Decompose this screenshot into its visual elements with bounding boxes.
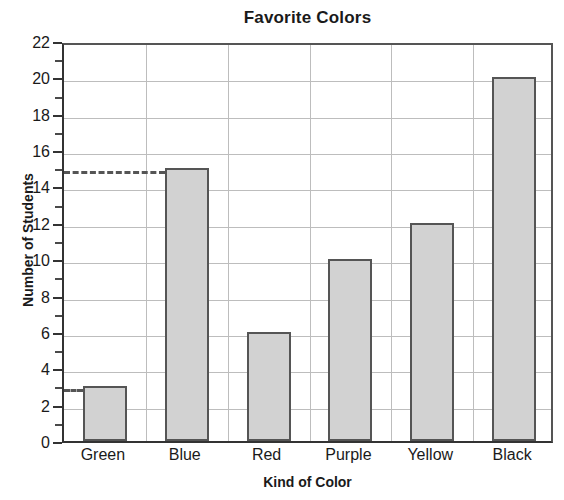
y-tick-minor — [55, 60, 62, 62]
reference-line-15 — [64, 171, 165, 174]
y-tick-minor — [55, 351, 62, 353]
y-tick-major — [53, 187, 62, 189]
y-tick-major — [53, 442, 62, 444]
gridline-horizontal — [64, 190, 551, 191]
y-tick-major — [53, 151, 62, 153]
gridline-vertical — [310, 45, 311, 441]
y-tick-label: 12 — [32, 216, 50, 234]
y-tick-minor — [55, 315, 62, 317]
plot-area — [62, 43, 553, 443]
y-tick-major — [53, 42, 62, 44]
y-tick-major — [53, 406, 62, 408]
x-tick-label-yellow: Yellow — [407, 446, 453, 464]
gridline-vertical — [146, 45, 147, 441]
y-tick-label: 6 — [41, 325, 50, 343]
y-tick-major — [53, 115, 62, 117]
y-tick-label: 2 — [41, 398, 50, 416]
gridline-vertical — [228, 45, 229, 441]
y-tick-label: 10 — [32, 252, 50, 270]
chart-title: Favorite Colors — [62, 8, 553, 28]
bar-black — [492, 77, 536, 441]
x-tick-label-red: Red — [252, 446, 281, 464]
gridline-horizontal — [64, 336, 551, 337]
gridline-vertical — [391, 45, 392, 441]
y-tick-label: 16 — [32, 143, 50, 161]
y-tick-label: 22 — [32, 34, 50, 52]
y-tick-minor — [55, 169, 62, 171]
bar-chart: Favorite Colors Number of Students Kind … — [0, 0, 564, 500]
bar-purple — [328, 259, 372, 441]
y-tick-major — [53, 297, 62, 299]
x-tick-label-purple: Purple — [325, 446, 371, 464]
reference-line-3 — [64, 389, 83, 392]
gridline-horizontal — [64, 409, 551, 410]
gridline-horizontal — [64, 154, 551, 155]
y-tick-label: 4 — [41, 361, 50, 379]
bar-blue — [165, 168, 209, 441]
bar-green — [83, 386, 127, 441]
y-tick-label: 18 — [32, 107, 50, 125]
y-tick-minor — [55, 206, 62, 208]
y-tick-major — [53, 369, 62, 371]
y-tick-label: 0 — [41, 434, 50, 452]
x-axis-title: Kind of Color — [62, 474, 553, 490]
y-tick-major — [53, 333, 62, 335]
gridline-horizontal — [64, 263, 551, 264]
bar-yellow — [410, 223, 454, 441]
gridline-horizontal — [64, 81, 551, 82]
y-tick-minor — [55, 242, 62, 244]
y-tick-minor — [55, 278, 62, 280]
y-tick-minor — [55, 133, 62, 135]
plot-inner — [64, 45, 551, 441]
gridline-horizontal — [64, 300, 551, 301]
x-tick-label-green: Green — [81, 446, 125, 464]
y-tick-major — [53, 224, 62, 226]
y-tick-minor — [55, 424, 62, 426]
x-tick-label-blue: Blue — [169, 446, 201, 464]
bar-red — [247, 332, 291, 441]
y-tick-minor — [55, 387, 62, 389]
y-tick-label: 14 — [32, 179, 50, 197]
y-tick-minor — [55, 97, 62, 99]
gridline-horizontal — [64, 118, 551, 119]
y-tick-label: 8 — [41, 289, 50, 307]
gridline-horizontal — [64, 227, 551, 228]
x-tick-label-black: Black — [493, 446, 532, 464]
gridline-vertical — [473, 45, 474, 441]
y-tick-major — [53, 260, 62, 262]
y-tick-major — [53, 78, 62, 80]
gridline-horizontal — [64, 372, 551, 373]
y-axis-tick-labels: 0246810121416182022 — [0, 43, 54, 443]
y-tick-label: 20 — [32, 70, 50, 88]
